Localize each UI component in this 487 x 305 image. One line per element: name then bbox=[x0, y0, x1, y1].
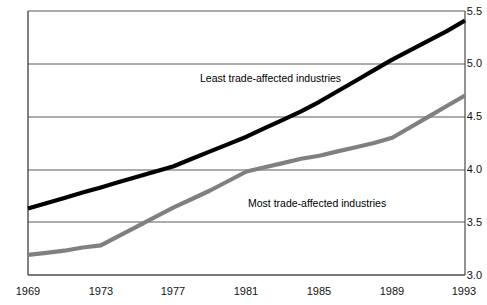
axis-frame bbox=[28, 11, 465, 275]
series-annotation-least-trade-affected: Least trade-affected industries bbox=[200, 72, 341, 84]
series-line-most-trade-affected bbox=[28, 96, 465, 255]
series-line-least-trade-affected bbox=[28, 21, 465, 209]
series-annotation-most-trade-affected: Most trade-affected industries bbox=[248, 197, 386, 209]
